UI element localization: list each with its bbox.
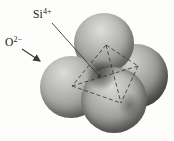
edge-left-right bbox=[72, 66, 138, 86]
tetrahedron-outline bbox=[72, 45, 138, 103]
edge-right-front bbox=[121, 66, 138, 103]
si-label: Si4+ bbox=[33, 8, 52, 21]
si-label-charge: 4+ bbox=[43, 7, 52, 16]
edge-left-front bbox=[72, 86, 121, 103]
o-pointer-arrow bbox=[22, 49, 40, 61]
edge-top-right bbox=[106, 45, 138, 66]
si-label-symbol: Si bbox=[33, 8, 43, 20]
tetrahedron-overlay bbox=[0, 0, 174, 141]
silicon-oxygen-tetrahedron-diagram: Si4+ O2− bbox=[0, 0, 174, 141]
o-label: O2− bbox=[5, 36, 22, 49]
o-label-symbol: O bbox=[5, 36, 14, 48]
o-label-charge: 2− bbox=[14, 35, 23, 44]
si-pointer-arrow bbox=[52, 23, 101, 78]
